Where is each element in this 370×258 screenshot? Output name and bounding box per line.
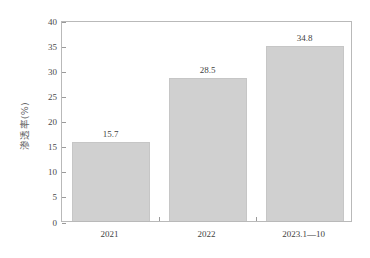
bar: 15.7 xyxy=(72,142,150,221)
y-tick-mark xyxy=(62,172,66,173)
y-tick-label: 30 xyxy=(48,66,57,79)
y-tick-mark xyxy=(62,147,66,148)
y-tick-label: 10 xyxy=(48,166,57,179)
y-tick-label: 40 xyxy=(48,16,57,29)
x-axis-label: 2023.1—10 xyxy=(245,228,363,240)
y-tick-mark xyxy=(62,122,66,123)
bar-value-label: 15.7 xyxy=(103,129,119,140)
bar-value-label: 34.8 xyxy=(297,33,313,44)
y-tick-label: 5 xyxy=(53,191,58,204)
y-axis-title: 渗透率(%) xyxy=(17,84,31,168)
y-axis-title-label: 渗透率(%) xyxy=(17,102,31,150)
bar-chart: 渗透率(%) 0510152025303540 15.728.534.8 202… xyxy=(0,0,370,258)
plot-area: 0510152025303540 15.728.534.8 xyxy=(61,21,352,222)
y-tick-label: 35 xyxy=(48,41,57,54)
y-tick-mark xyxy=(62,223,66,224)
y-tick-mark xyxy=(62,47,66,48)
y-tick-mark xyxy=(62,197,66,198)
bar-value-label: 28.5 xyxy=(200,65,216,76)
x-tick-mark xyxy=(256,217,257,221)
bar: 34.8 xyxy=(266,46,344,221)
x-tick-mark xyxy=(159,217,160,221)
y-tick-label: 25 xyxy=(48,91,57,104)
bar: 28.5 xyxy=(169,78,247,221)
y-tick-label: 20 xyxy=(48,116,57,129)
y-tick-label: 15 xyxy=(48,141,57,154)
y-tick-mark xyxy=(62,97,66,98)
y-tick-mark xyxy=(62,72,66,73)
y-tick-mark xyxy=(62,22,66,23)
